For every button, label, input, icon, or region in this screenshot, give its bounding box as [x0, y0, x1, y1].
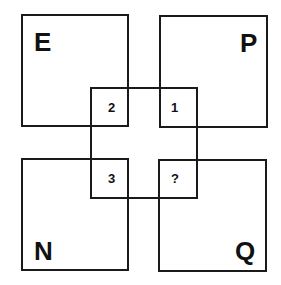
letter-top-right: P [240, 30, 257, 56]
square-center [90, 87, 198, 199]
cell-bottom-right-unknown: ? [171, 172, 179, 185]
letter-bottom-right: Q [235, 238, 255, 264]
cell-bottom-left-number: 3 [108, 172, 115, 185]
letter-bottom-left: N [34, 238, 53, 264]
cell-top-right-number: 1 [171, 101, 178, 114]
cell-top-left-number: 2 [108, 101, 115, 114]
letter-top-left: E [34, 29, 51, 55]
